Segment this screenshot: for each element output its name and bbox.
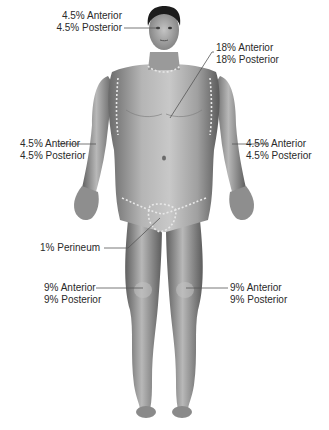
label-left-arm-anterior: 4.5% Anterior — [246, 138, 312, 150]
label-right-leg-anterior: 9% Anterior — [44, 282, 101, 294]
label-left-leg: 9% Anterior 9% Posterior — [230, 282, 287, 306]
label-head-anterior: 4.5% Anterior — [40, 10, 122, 22]
label-trunk: 18% Anterior 18% Posterior — [216, 42, 279, 66]
label-right-arm: 4.5% Anterior 4.5% Posterior — [20, 138, 86, 162]
label-left-arm: 4.5% Anterior 4.5% Posterior — [246, 138, 312, 162]
label-head-posterior: 4.5% Posterior — [40, 22, 122, 34]
label-right-arm-anterior: 4.5% Anterior — [20, 138, 86, 150]
torso — [108, 64, 219, 232]
rule-of-nines-diagram: 4.5% Anterior 4.5% Posterior 18% Anterio… — [0, 0, 329, 430]
label-perineum: 1% Perineum — [40, 242, 100, 254]
label-trunk-posterior: 18% Posterior — [216, 54, 279, 66]
label-perineum-text: 1% Perineum — [40, 242, 100, 254]
label-left-leg-posterior: 9% Posterior — [230, 294, 287, 306]
label-left-leg-anterior: 9% Anterior — [230, 282, 287, 294]
label-right-leg-posterior: 9% Posterior — [44, 294, 101, 306]
label-right-arm-posterior: 4.5% Posterior — [20, 150, 86, 162]
label-trunk-anterior: 18% Anterior — [216, 42, 279, 54]
legs — [125, 220, 203, 418]
label-right-leg: 9% Anterior 9% Posterior — [44, 282, 101, 306]
human-body-figure — [0, 0, 329, 430]
label-head: 4.5% Anterior 4.5% Posterior — [40, 10, 122, 34]
label-left-arm-posterior: 4.5% Posterior — [246, 150, 312, 162]
